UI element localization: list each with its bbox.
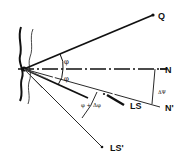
label-phi-upper: φ xyxy=(64,58,69,66)
arc-delta-psi xyxy=(152,69,155,104)
label-LS-prime: LS' xyxy=(110,143,124,153)
label-delta-psi: ΔΨ xyxy=(158,89,167,95)
fan-line xyxy=(24,69,48,79)
label-phi-plus-delta-phi: φ + Δφ xyxy=(81,102,101,109)
diagram-canvas: Q N N' LS LS' φ φ φ + Δφ ΔΨ xyxy=(0,0,184,165)
LS-dot xyxy=(103,93,105,95)
label-N: N xyxy=(165,65,172,75)
ray-Q xyxy=(24,15,153,69)
Q-endpoint xyxy=(151,13,154,16)
label-N-prime: N' xyxy=(165,103,174,113)
arc-phi-lower xyxy=(58,69,63,85)
ray-LS xyxy=(24,69,88,98)
arc-phi-upper xyxy=(60,54,63,69)
surface-wave-thick xyxy=(20,27,23,101)
LS-prime-endpoint xyxy=(101,146,104,149)
label-LS: LS xyxy=(130,101,142,111)
label-phi-lower: φ xyxy=(64,75,69,83)
label-Q: Q xyxy=(158,11,165,21)
